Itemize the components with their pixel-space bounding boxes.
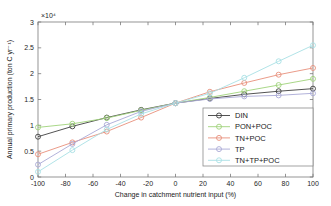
x-tick-label: -100 xyxy=(31,180,45,187)
x-tick-label: -60 xyxy=(88,180,98,187)
x-tick-label: 40 xyxy=(227,180,235,187)
x-tick-label: 60 xyxy=(254,180,262,187)
x-axis-label: Change in catchment nutrient input (%) xyxy=(115,191,236,199)
legend-label: TN+POC xyxy=(235,134,266,143)
y-tick-label: 3 xyxy=(30,19,34,26)
y-axis-label: Annual primary production (ton C yr⁻¹) xyxy=(6,40,14,159)
legend-label: DIN xyxy=(235,111,248,120)
legend-label: TN+TP+POC xyxy=(235,156,280,165)
chart-canvas: -100-80-60-40-2002040608010000.511.522.5… xyxy=(0,0,331,206)
y-tick-label: 2.5 xyxy=(24,44,34,51)
legend-label: PON+POC xyxy=(235,122,272,131)
x-tick-label: -40 xyxy=(115,180,125,187)
y-axis-exponent-label: ×10⁴ xyxy=(41,12,56,19)
y-tick-label: 0.5 xyxy=(24,148,34,155)
x-tick-label: 20 xyxy=(199,180,207,187)
y-tick-label: 0 xyxy=(30,174,34,181)
figure-container: -100-80-60-40-2002040608010000.511.522.5… xyxy=(0,0,331,206)
x-tick-label: -80 xyxy=(60,180,70,187)
y-tick-label: 1 xyxy=(30,122,34,129)
x-tick-label: 0 xyxy=(174,180,178,187)
x-tick-label: -20 xyxy=(143,180,153,187)
x-tick-label: 100 xyxy=(307,180,319,187)
y-tick-label: 1.5 xyxy=(24,96,34,103)
chart-legend: DINPON+POCTN+POCTPTN+TP+POC xyxy=(203,108,313,166)
x-tick-label: 80 xyxy=(282,180,290,187)
y-tick-label: 2 xyxy=(30,70,34,77)
legend-label: TP xyxy=(235,145,245,154)
